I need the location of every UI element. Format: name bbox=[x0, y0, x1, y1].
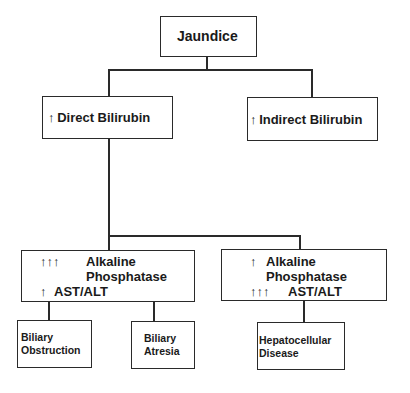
node-hepatocellular-line2: Disease bbox=[259, 347, 299, 360]
labs-left-line3: AST/ALT bbox=[54, 284, 108, 299]
connector-level1-bar bbox=[108, 69, 312, 71]
node-biliary-atresia: Biliary Atresia bbox=[131, 321, 195, 369]
node-indirect-bilirubin: ↑ Indirect Bilirubin bbox=[247, 97, 378, 141]
node-jaundice-label: Jaundice bbox=[177, 28, 238, 44]
labs-right-arrow-3: ↑↑↑ bbox=[250, 284, 270, 299]
connector-to-obstruction bbox=[48, 301, 50, 320]
connector-to-direct bbox=[108, 69, 110, 96]
node-indirect-bilirubin-label: ↑ Indirect Bilirubin bbox=[250, 112, 362, 127]
connector-level2-bar bbox=[108, 235, 301, 237]
up-arrow-icon: ↑ bbox=[48, 110, 54, 125]
node-hepatocellular-line1: Hepatocellular bbox=[259, 334, 331, 347]
connector-direct-down bbox=[108, 139, 110, 250]
labs-left-line1: Alkaline bbox=[86, 254, 136, 269]
node-biliary-obstruction: Biliary Obstruction bbox=[17, 320, 92, 368]
connector-root-down bbox=[206, 56, 208, 70]
labs-right-line1: Alkaline bbox=[266, 254, 316, 269]
labs-right-line2: Phosphatase bbox=[266, 269, 347, 284]
node-hepatocellular-disease: Hepatocellular Disease bbox=[257, 322, 345, 370]
node-jaundice: Jaundice bbox=[160, 16, 257, 57]
connector-to-indirect bbox=[311, 69, 313, 97]
node-biliary-atresia-line1: Biliary bbox=[144, 332, 176, 345]
node-cholestatic-labs: ↑↑↑ Alkaline Phosphatase ↑ AST/ALT bbox=[21, 250, 195, 302]
labs-right-arrow-1: ↑ bbox=[250, 254, 257, 269]
node-direct-bilirubin-label: ↑ Direct Bilirubin bbox=[48, 110, 150, 125]
node-biliary-atresia-line2: Atresia bbox=[144, 345, 180, 358]
node-direct-bilirubin: ↑ Direct Bilirubin bbox=[42, 96, 173, 139]
node-biliary-obstruction-line1: Biliary bbox=[21, 331, 53, 344]
labs-left-arrow-1: ↑↑↑ bbox=[40, 254, 60, 269]
connector-to-atresia bbox=[153, 301, 155, 321]
node-biliary-obstruction-line2: Obstruction bbox=[21, 344, 81, 357]
connector-to-hepatocellular bbox=[303, 301, 305, 322]
up-arrow-icon: ↑ bbox=[250, 112, 256, 127]
node-hepatocellular-labs: ↑ Alkaline Phosphatase ↑↑↑ AST/ALT bbox=[221, 249, 387, 301]
labs-left-line2: Phosphatase bbox=[86, 269, 167, 284]
labs-right-line3: AST/ALT bbox=[288, 284, 342, 299]
connector-to-right-labs bbox=[299, 235, 301, 249]
labs-left-arrow-3: ↑ bbox=[40, 284, 47, 299]
